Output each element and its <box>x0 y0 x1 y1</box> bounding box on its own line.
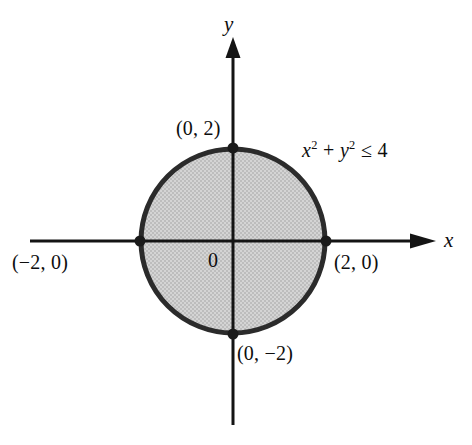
point-marker-left <box>135 236 146 247</box>
point-marker-top <box>228 143 239 154</box>
equation-plus-sign: + <box>323 139 335 161</box>
point-label-left: (−2, 0) <box>12 252 68 272</box>
point-marker-bottom <box>228 329 239 340</box>
equation-base-x: x <box>302 139 311 161</box>
point-label-bottom: (0, −2) <box>237 343 293 363</box>
equation-value: 4 <box>378 139 388 161</box>
origin-label: 0 <box>208 250 218 270</box>
point-label-right: (2, 0) <box>334 252 379 272</box>
equation-base-y: y <box>340 139 349 161</box>
equation-relation-sign: ≤ <box>361 139 372 161</box>
figure-canvas: y x 0 (0, 2) (−2, 0) (2, 0) (0, −2) x2 +… <box>0 0 472 445</box>
point-marker-right <box>321 236 332 247</box>
point-label-top: (0, 2) <box>176 118 221 138</box>
x-axis-arrowhead <box>410 234 436 249</box>
x-axis-label: x <box>444 230 453 251</box>
y-axis-label: y <box>224 14 233 35</box>
inequality-annotation: x2 + y2 ≤ 4 <box>302 140 388 160</box>
coordinate-plane-graphic <box>0 0 472 445</box>
y-axis-arrowhead <box>226 37 241 58</box>
